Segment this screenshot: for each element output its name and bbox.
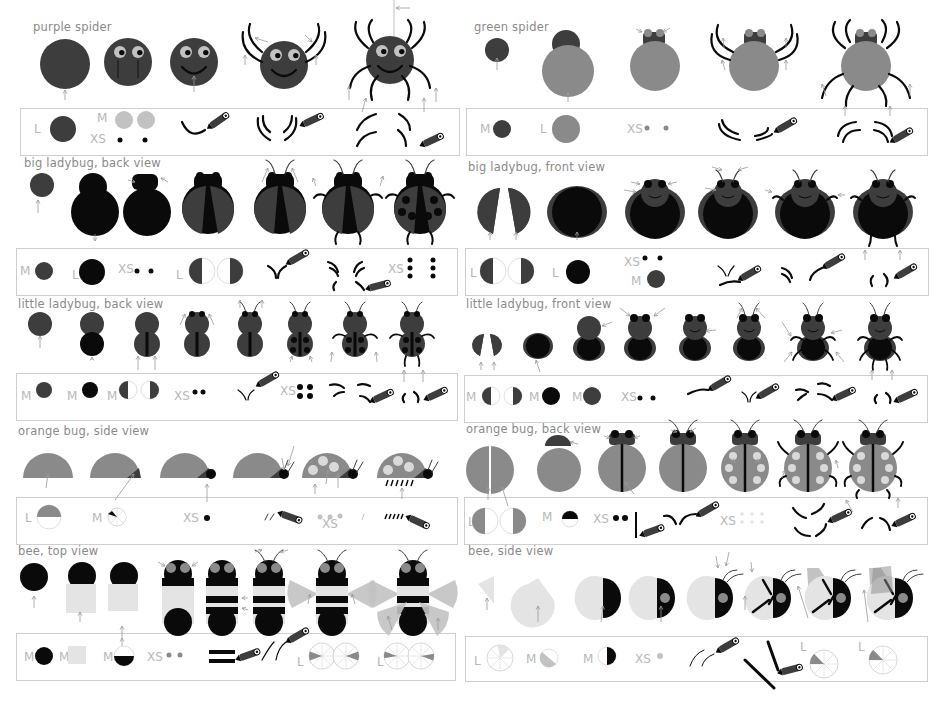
antenna-icon [428,460,432,470]
legend-eye-piece [149,269,154,274]
legend-spot-piece [750,512,754,516]
eye-icon [658,180,666,188]
pencil-icon [892,388,919,405]
bee-body [66,584,96,613]
legend-tail-piece [114,656,134,666]
eye-icon [242,311,248,317]
spider-body [630,41,680,91]
leg-stroke [718,266,726,276]
eye-icon [757,29,765,37]
legend-leg-piece [385,514,387,519]
leg-stroke [755,128,768,136]
leg-stroke [798,394,806,400]
eye-icon [745,29,753,37]
legend-eye-piece [135,269,140,274]
leg-stroke [335,232,338,244]
spot-icon [358,337,364,343]
pencil-icon [276,509,303,524]
pencil-icon [284,626,310,645]
leg-stroke [846,86,853,106]
eye-icon [751,314,759,322]
eye-icon [872,180,880,188]
eye-icon [199,311,205,317]
antenna-icon [266,160,275,174]
spot-icon [398,208,406,216]
spot-icon [359,347,365,353]
leg-stroke [812,504,824,514]
leg-stroke [405,356,406,366]
spot-icon [757,464,765,472]
bee-wing [871,566,893,594]
antenna-icon [785,574,801,582]
leg-stroke [782,274,790,282]
legend-eye-piece [657,653,663,659]
arrow-line [836,352,844,362]
wing-left [477,188,500,234]
half-circle-shape [230,258,243,284]
leg-stroke [386,194,398,198]
pencil-icon [754,382,780,401]
legend-leg-piece [393,514,395,519]
leg-stroke [430,232,433,244]
leg-stroke [795,528,810,536]
antenna-icon [810,170,817,182]
legend-pupil-piece [118,138,123,143]
bee-body [575,576,603,620]
spot-icon [402,196,410,204]
leg-stroke [396,480,398,486]
wing-right [490,334,502,356]
spot-icon [403,337,409,343]
half-circle-shape [119,381,128,399]
pencil-icon [714,636,740,655]
leg-stroke [745,660,774,688]
legend-stripe-piece [209,659,235,663]
legend-eye-piece [193,390,198,395]
eye-icon [660,593,670,603]
spot-icon [402,347,408,353]
leg-stroke [890,337,902,340]
antenna-icon [285,160,294,174]
legend-head-piece [35,647,53,665]
leg-stroke [895,236,897,246]
spider-body [366,36,414,84]
leg-stroke [742,392,748,402]
pupil-icon [275,53,280,58]
half-circle-shape [607,647,616,665]
leg-stroke [422,334,434,338]
pupil-icon [381,49,386,54]
antenna-icon [417,550,427,562]
half-circle-shape [513,387,522,405]
spot-icon [788,464,796,472]
antenna-icon [794,420,804,432]
antenna-icon [888,170,895,182]
legend-eye-piece [204,515,210,521]
spot-icon [415,337,421,343]
leg-stroke [403,394,405,402]
leg-stroke [357,114,376,130]
wing-left [322,186,346,234]
legend-spot-piece [328,515,333,520]
spot-icon [303,337,309,343]
wing-left [182,186,206,234]
legend-spot-piece [431,266,436,271]
legend-eye-piece [201,390,206,395]
leg-stroke [830,476,836,486]
leg-stroke [369,20,373,42]
leg-stroke [238,390,246,400]
pencil-icon [254,370,280,389]
arrow-line [502,487,508,506]
pencil-icon [205,111,230,132]
antenna-icon [716,170,723,182]
bee-body-top [316,578,348,586]
legend-body-piece [82,382,98,398]
pencil-icon [234,648,261,663]
leg-stroke [664,516,676,524]
antenna-icon [817,303,823,315]
leg-stroke [356,282,364,290]
leg-stroke [884,274,888,286]
eye-icon [886,180,894,188]
leg-stroke [869,236,871,246]
legend-eye-piece [651,396,656,401]
legend-head-piece [583,387,601,405]
antenna-icon [793,170,800,182]
